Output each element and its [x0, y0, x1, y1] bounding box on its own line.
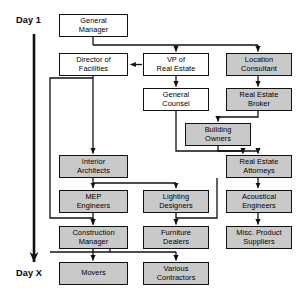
node-mep-engineers[interactable]: MEP Engineers [59, 190, 128, 213]
node-label: Interior Architects [77, 158, 110, 175]
node-label: General Counsel [162, 91, 189, 108]
node-movers[interactable]: Movers [59, 262, 128, 285]
node-lighting-designers[interactable]: Lighting Designers [143, 190, 209, 213]
node-label: Acoustical Engineers [242, 193, 276, 210]
node-label: VP of Real Estate [157, 56, 196, 73]
node-acoustical-engineers[interactable]: Acoustical Engineers [226, 190, 292, 213]
day-x-label: Day X [16, 268, 42, 278]
node-label: Location Consultant [241, 56, 277, 73]
node-label: Furniture Dealers [161, 229, 191, 246]
node-building-owners[interactable]: Building Owners [185, 123, 251, 146]
node-label: Misc. Product Suppliers [236, 229, 281, 246]
node-label: Lighting Designers [159, 193, 193, 210]
timeline-arrowhead [30, 252, 39, 262]
node-label: Real Estate Broker [240, 91, 279, 108]
node-label: Building Owners [205, 126, 232, 143]
node-general-counsel[interactable]: General Counsel [143, 88, 209, 111]
node-location-consultant[interactable]: Location Consultant [226, 53, 292, 76]
node-label: Director of Facilities [76, 56, 111, 73]
node-various-contractors[interactable]: Various Contractors [143, 262, 209, 285]
node-director-of-facilities[interactable]: Director of Facilities [59, 53, 128, 76]
node-general-manager[interactable]: General Manager [59, 14, 128, 37]
node-label: General Manager [79, 17, 109, 34]
node-label: MEP Engineers [77, 193, 111, 210]
node-label: Construction Manager [72, 229, 114, 246]
connector-layer [0, 0, 308, 304]
node-label: Movers [81, 269, 106, 278]
node-label: Real Estate Attorneys [240, 158, 279, 175]
node-vp-of-real-estate[interactable]: VP of Real Estate [143, 53, 209, 76]
node-label: Various Contractors [157, 265, 196, 282]
flowchart-diagram: Day 1 Day X General Manager Director of … [0, 0, 308, 304]
node-real-estate-attorneys[interactable]: Real Estate Attorneys [226, 155, 292, 178]
day-1-label: Day 1 [16, 15, 41, 25]
node-furniture-dealers[interactable]: Furniture Dealers [143, 226, 209, 249]
node-interior-architects[interactable]: Interior Architects [59, 155, 128, 178]
node-construction-manager[interactable]: Construction Manager [59, 226, 128, 249]
node-misc-product-suppliers[interactable]: Misc. Product Suppliers [226, 226, 292, 249]
node-real-estate-broker[interactable]: Real Estate Broker [226, 88, 292, 111]
